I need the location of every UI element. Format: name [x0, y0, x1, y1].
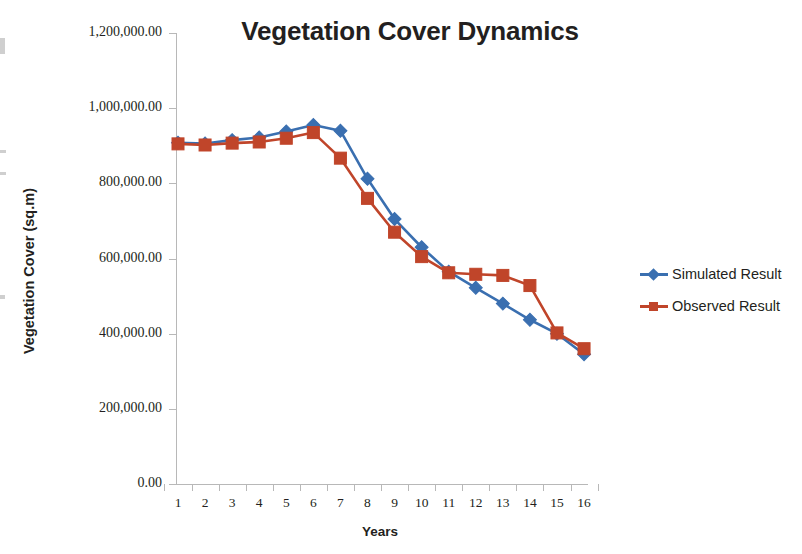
data-point-marker — [361, 192, 373, 204]
data-point-marker — [469, 281, 482, 294]
x-axis-tick-label: 9 — [382, 495, 408, 511]
y-axis-tick — [169, 259, 177, 260]
x-axis-tick — [598, 484, 599, 491]
x-axis-tick-label: 3 — [219, 495, 245, 511]
data-point-marker — [280, 132, 292, 144]
data-point-marker — [199, 137, 212, 150]
data-point-marker — [496, 297, 509, 310]
x-axis-tick-label: 4 — [246, 495, 272, 511]
legend-label-simulated: Simulated Result — [672, 266, 782, 282]
data-point-marker — [470, 268, 482, 280]
data-point-marker — [389, 226, 401, 238]
data-point-marker — [307, 127, 319, 139]
data-point-marker — [334, 124, 347, 137]
y-axis-tick-label: 400,000.00 — [42, 325, 162, 341]
data-point-marker — [361, 172, 374, 185]
chart-legend: Simulated Result Observed Result — [640, 258, 800, 322]
data-point-marker — [226, 137, 238, 149]
y-axis-title: Vegetation Cover (sq.m) — [21, 156, 37, 386]
series-line-observed-result — [178, 133, 584, 349]
scan-artifact — [0, 295, 5, 299]
data-point-marker — [199, 139, 211, 151]
data-point-marker — [523, 313, 536, 326]
data-point-marker — [578, 348, 591, 361]
x-axis-tick-label: 14 — [517, 495, 543, 511]
x-axis-tick-label: 10 — [409, 495, 435, 511]
y-axis-tick-label: 800,000.00 — [42, 174, 162, 190]
x-axis-title: Years — [160, 524, 600, 539]
x-axis-tick — [246, 484, 247, 491]
x-axis-tick — [192, 484, 193, 491]
y-axis-tick-label: 200,000.00 — [42, 400, 162, 416]
chart-title: Vegetation Cover Dynamics — [200, 16, 620, 47]
x-axis-tick-label: 8 — [354, 495, 380, 511]
data-point-marker — [307, 119, 320, 132]
x-axis-tick — [571, 484, 572, 491]
x-axis-tick-label: 1 — [165, 495, 191, 511]
legend-item-observed[interactable]: Observed Result — [640, 290, 800, 322]
x-axis-tick — [408, 484, 409, 491]
legend-swatch-simulated — [640, 267, 668, 281]
x-axis-tick-label: 6 — [300, 495, 326, 511]
y-axis-tick — [169, 484, 177, 485]
x-axis-tick — [273, 484, 274, 491]
x-axis-tick — [219, 484, 220, 491]
y-axis-tick — [169, 108, 177, 109]
series-line-simulated-result — [178, 125, 584, 354]
data-point-marker — [253, 131, 266, 144]
x-axis-tick — [300, 484, 301, 491]
x-axis-tick — [435, 484, 436, 491]
scan-artifact — [0, 150, 6, 153]
y-axis-tick-label: 1,200,000.00 — [42, 24, 162, 40]
legend-swatch-observed — [640, 299, 668, 313]
x-axis-tick-label: 13 — [490, 495, 516, 511]
data-point-marker — [415, 241, 428, 254]
chart-container: Vegetation Cover Dynamics Vegetation Cov… — [0, 0, 802, 554]
x-axis-tick-label: 15 — [544, 495, 570, 511]
y-axis-tick — [169, 33, 177, 34]
x-axis-tick — [381, 484, 382, 491]
legend-label-observed: Observed Result — [672, 298, 780, 314]
x-axis-tick — [543, 484, 544, 491]
data-point-marker — [442, 265, 455, 278]
data-point-marker — [550, 327, 563, 340]
scan-artifact — [0, 38, 5, 54]
data-point-marker — [172, 138, 184, 150]
data-point-marker — [578, 343, 590, 355]
data-point-marker — [388, 213, 401, 226]
data-point-marker — [524, 280, 536, 292]
scan-artifact — [0, 172, 6, 175]
x-axis-tick-label: 5 — [273, 495, 299, 511]
y-axis-tick-label: 0.00 — [42, 475, 162, 491]
x-axis-tick — [327, 484, 328, 491]
data-point-marker — [253, 136, 265, 148]
x-axis-tick-label: 11 — [436, 495, 462, 511]
x-axis-tick — [489, 484, 490, 491]
x-axis-tick-label: 12 — [463, 495, 489, 511]
x-axis-tick — [354, 484, 355, 491]
y-axis-tick-label: 600,000.00 — [42, 250, 162, 266]
x-axis-tick-label: 16 — [571, 495, 597, 511]
data-point-marker — [497, 269, 509, 281]
data-point-marker — [280, 125, 293, 138]
data-point-marker — [416, 251, 428, 263]
y-axis-tick — [169, 409, 177, 410]
data-point-marker — [226, 134, 239, 147]
x-axis-tick — [164, 484, 165, 491]
x-axis-tick — [516, 484, 517, 491]
data-point-marker — [443, 267, 455, 279]
y-axis-tick-label: 1,000,000.00 — [42, 99, 162, 115]
x-axis-tick-label: 7 — [327, 495, 353, 511]
data-point-marker — [551, 327, 563, 339]
y-axis-tick — [169, 183, 177, 184]
legend-item-simulated[interactable]: Simulated Result — [640, 258, 800, 290]
data-point-marker — [171, 136, 184, 149]
data-point-marker — [334, 152, 346, 164]
x-axis-tick-label: 2 — [192, 495, 218, 511]
y-axis-tick — [169, 334, 177, 335]
x-axis-tick — [462, 484, 463, 491]
